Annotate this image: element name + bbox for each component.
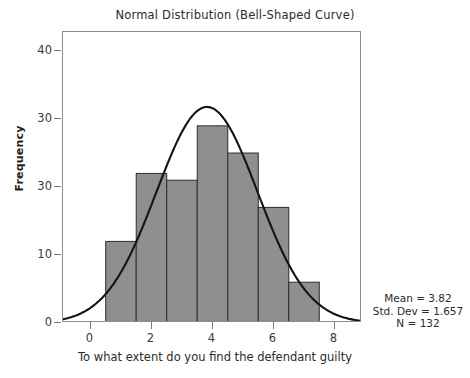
stat-n: N = 132 (368, 317, 468, 330)
x-axis-tick-label: 6 (258, 331, 288, 345)
stat-std-dev: Std. Dev = 1.657 (368, 305, 468, 318)
y-axis-title: Frequency (13, 104, 26, 214)
statistics-annotation: Mean = 3.82 Std. Dev = 1.657 N = 132 (368, 292, 468, 330)
histogram-bar (197, 126, 228, 322)
y-axis-tick-label: 0 (12, 315, 52, 329)
plot-svg (63, 32, 361, 322)
y-axis-tick (54, 118, 61, 119)
x-axis-tick-label: 4 (197, 331, 227, 345)
x-axis-tick (90, 322, 91, 329)
y-axis-tick-label: 40 (12, 43, 52, 57)
x-axis-tick (334, 322, 335, 329)
x-axis-title: To what extent do you find the defendant… (30, 350, 400, 364)
histogram-bar (136, 173, 167, 322)
clipped-caption-fragment (0, 0, 470, 2)
x-axis-tick-label: 2 (136, 331, 166, 345)
x-axis-tick (212, 322, 213, 329)
histogram-bar (167, 180, 198, 322)
histogram-bar (258, 207, 289, 322)
plot-area (62, 31, 361, 322)
histogram-bar (228, 153, 259, 322)
normal-distribution-histogram: Normal Distribution (Bell-Shaped Curve) … (0, 0, 470, 378)
y-axis-tick-label: 10 (12, 247, 52, 261)
y-axis-tick (54, 254, 61, 255)
x-axis-tick-label: 8 (319, 331, 349, 345)
histogram-bars (106, 126, 320, 322)
stat-mean: Mean = 3.82 (368, 292, 468, 305)
x-axis-tick-label: 0 (75, 331, 105, 345)
x-axis-tick (151, 322, 152, 329)
y-axis-tick (54, 322, 61, 323)
y-axis-tick (54, 186, 61, 187)
y-axis-tick (54, 50, 61, 51)
chart-title: Normal Distribution (Bell-Shaped Curve) (0, 8, 470, 22)
x-axis-tick (273, 322, 274, 329)
